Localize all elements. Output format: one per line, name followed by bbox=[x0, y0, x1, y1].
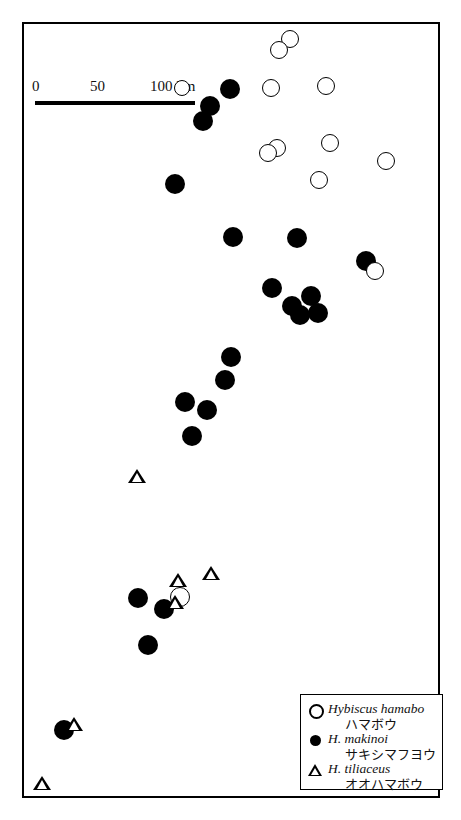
point-marker-makinoi bbox=[220, 79, 240, 99]
point-marker-makinoi bbox=[221, 347, 241, 367]
map-border-frame bbox=[22, 22, 440, 798]
point-marker-tiliaceus bbox=[166, 595, 184, 609]
point-marker-makinoi bbox=[165, 174, 185, 194]
point-marker-makinoi bbox=[287, 228, 307, 248]
point-marker-tiliaceus bbox=[169, 573, 187, 587]
point-marker-makinoi bbox=[128, 588, 148, 608]
point-marker-makinoi bbox=[223, 227, 243, 247]
legend-box: Hybiscus hamabo ハマボウ H. makinoi サキシマフヨウ … bbox=[300, 694, 443, 790]
point-marker-makinoi bbox=[193, 111, 213, 131]
legend-item-makinoi: H. makinoi サキシマフヨウ bbox=[307, 731, 438, 761]
point-marker-makinoi bbox=[308, 303, 328, 323]
point-marker-hamabo bbox=[377, 152, 395, 170]
open-triangle-icon bbox=[308, 764, 322, 776]
point-marker-hamabo bbox=[174, 80, 190, 96]
point-marker-tiliaceus bbox=[33, 776, 51, 790]
point-marker-makinoi bbox=[197, 400, 217, 420]
distribution-map-figure: 0 50 100 km Hybiscus hamabo ハマボウ H. maki… bbox=[0, 0, 461, 820]
point-marker-tiliaceus bbox=[65, 717, 83, 731]
point-marker-hamabo bbox=[317, 77, 335, 95]
legend-item-hamabo: Hybiscus hamabo ハマボウ bbox=[307, 701, 438, 731]
point-marker-makinoi bbox=[175, 392, 195, 412]
point-marker-hamabo bbox=[270, 41, 288, 59]
point-marker-makinoi bbox=[182, 426, 202, 446]
legend-item-tiliaceus: H. tiliaceus オオハマボウ bbox=[307, 761, 438, 791]
point-marker-tiliaceus bbox=[128, 469, 146, 483]
point-marker-hamabo bbox=[321, 134, 339, 152]
point-marker-hamabo bbox=[366, 262, 384, 280]
point-marker-makinoi bbox=[138, 635, 158, 655]
open-circle-icon bbox=[309, 704, 324, 719]
point-marker-hamabo bbox=[259, 144, 277, 162]
legend-japanese-name: オオハマボウ bbox=[345, 774, 423, 793]
point-marker-makinoi bbox=[290, 305, 310, 325]
filled-circle-icon bbox=[310, 735, 321, 746]
scale-tick-0: 0 bbox=[32, 78, 40, 95]
scale-tick-50: 50 bbox=[90, 78, 105, 95]
point-marker-hamabo bbox=[262, 79, 280, 97]
point-marker-tiliaceus bbox=[202, 566, 220, 580]
point-marker-makinoi bbox=[215, 370, 235, 390]
point-marker-makinoi bbox=[262, 278, 282, 298]
point-marker-hamabo bbox=[310, 171, 328, 189]
scale-bar-line bbox=[35, 101, 195, 105]
